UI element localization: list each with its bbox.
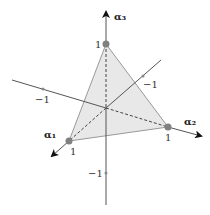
alpha1-label: α₁ — [44, 129, 56, 140]
diagram-canvas: α₃ α₁ α₂ 1 1 1 −1 −1 −1 — [0, 0, 210, 215]
simplex-diagram: α₃ α₁ α₂ 1 1 1 −1 −1 −1 — [0, 0, 210, 215]
vertex-alpha2 — [165, 124, 172, 131]
alpha2-label: α₂ — [184, 116, 196, 127]
vertex-alpha1 — [66, 138, 73, 145]
tick-neg-diag — [142, 75, 145, 78]
tick-neg-bottom — [105, 172, 108, 175]
alpha3-label: α₃ — [114, 11, 126, 22]
tick-label-one-alpha3: 1 — [95, 39, 101, 50]
tick-label-neg-left: −1 — [35, 94, 50, 105]
tick-label-neg-bottom: −1 — [88, 168, 103, 179]
tick-label-neg-diag: −1 — [143, 79, 158, 90]
simplex-triangle — [69, 44, 168, 141]
tick-neg-left — [42, 88, 45, 91]
vertex-alpha3 — [103, 41, 110, 48]
alpha2-axis-pos — [168, 127, 201, 136]
tick-label-one-alpha1: 1 — [70, 146, 76, 157]
tick-label-one-alpha2: 1 — [165, 132, 171, 143]
